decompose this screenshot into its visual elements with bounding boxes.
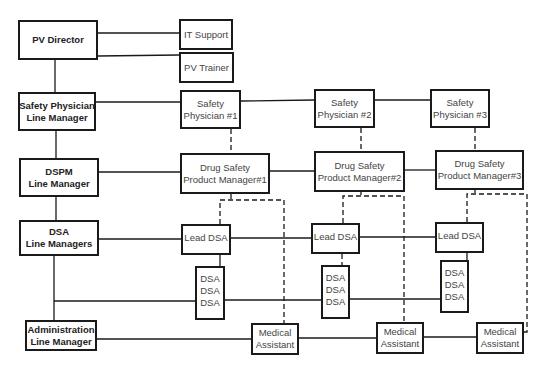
medical-assistant-2-box: Medical Assistant: [376, 322, 424, 354]
dspm-2-box: Drug Safety Product Manager#2: [314, 151, 405, 192]
dspm-3-box: Drug Safety Product Manager#3: [435, 150, 524, 190]
dsa-1b: DSA: [200, 285, 220, 297]
pv-director-box: PV Director: [18, 20, 98, 60]
pv-trainer-box: PV Trainer: [179, 52, 234, 83]
sp2-label-1: Safety: [331, 97, 358, 109]
sp3-label-2: Physician #3: [433, 109, 487, 121]
dspm-lm-label-1: DSPM: [45, 166, 72, 178]
sp-lm-label-1: Safety Physician: [19, 100, 95, 112]
dsa-group-2-box: DSA DSA DSA: [321, 265, 350, 319]
sp1-label-2: Physician #1: [184, 110, 238, 122]
it-support-label: IT Support: [184, 29, 228, 41]
dsa-group-1-box: DSA DSA DSA: [195, 266, 225, 320]
sp3-label-1: Safety: [447, 97, 474, 109]
admin-lm-label-1: Administration: [27, 324, 94, 336]
sp2-label-2: Physician #2: [318, 109, 372, 121]
medical-assistant-3-box: Medical Assistant: [476, 322, 524, 354]
pv-director-label: PV Director: [32, 34, 84, 46]
dspm2-label-2: Product Manager#2: [318, 172, 401, 184]
safety-physician-line-manager-box: Safety Physician Line Manager: [18, 92, 96, 131]
lead-dsa-3-box: Lead DSA: [435, 222, 484, 253]
dsa-3b: DSA: [445, 279, 465, 291]
dsa-group-3-box: DSA DSA DSA: [440, 260, 469, 313]
lead-dsa-1-box: Lead DSA: [181, 224, 231, 255]
safety-physician-1-box: Safety Physician #1: [180, 90, 241, 129]
safety-physician-2-box: Safety Physician #2: [314, 89, 375, 128]
dsa-line-managers-box: DSA Line Managers: [19, 220, 99, 256]
dsa-2c: DSA: [326, 296, 346, 308]
it-support-box: IT Support: [179, 19, 233, 50]
dspm3-label-2: Product Manager#3: [438, 170, 521, 182]
dsa-2b: DSA: [326, 284, 346, 296]
ma3-label-2: Assistant: [481, 338, 520, 350]
ma3-label-1: Medical: [484, 326, 517, 338]
dsa-2a: DSA: [326, 272, 346, 284]
ma2-label-1: Medical: [384, 326, 417, 338]
pv-trainer-label: PV Trainer: [184, 62, 229, 74]
dsa-lm-label-1: DSA: [49, 226, 69, 238]
lead-dsa-2-label: Lead DSA: [314, 231, 357, 243]
dsa-1c: DSA: [200, 297, 220, 309]
lead-dsa-3-label: Lead DSA: [438, 230, 481, 242]
dspm1-label-2: Product Manager#1: [183, 174, 266, 186]
dspm1-label-1: Drug Safety: [200, 162, 250, 174]
sp-lm-label-2: Line Manager: [26, 112, 87, 124]
ma1-label-2: Assistant: [256, 339, 295, 351]
dsa-3c: DSA: [445, 291, 465, 303]
dspm3-label-1: Drug Safety: [454, 158, 504, 170]
lead-dsa-2-box: Lead DSA: [311, 223, 360, 254]
dsa-1a: DSA: [200, 273, 220, 285]
dspm-lm-label-2: Line Manager: [28, 178, 89, 190]
ma2-label-2: Assistant: [381, 338, 420, 350]
dspm-1-box: Drug Safety Product Manager#1: [180, 153, 270, 194]
dspm2-label-1: Drug Safety: [334, 160, 384, 172]
medical-assistant-1-box: Medical Assistant: [251, 323, 299, 355]
sp1-label-1: Safety: [197, 98, 224, 110]
admin-lm-label-2: Line Manager: [30, 336, 91, 348]
safety-physician-3-box: Safety Physician #3: [430, 89, 490, 128]
administration-line-manager-box: Administration Line Manager: [25, 320, 97, 351]
ma1-label-1: Medical: [259, 327, 292, 339]
dsa-3a: DSA: [445, 267, 465, 279]
dsa-lm-label-2: Line Managers: [26, 238, 93, 250]
lead-dsa-1-label: Lead DSA: [184, 232, 227, 244]
dspm-line-manager-box: DSPM Line Manager: [19, 158, 99, 197]
